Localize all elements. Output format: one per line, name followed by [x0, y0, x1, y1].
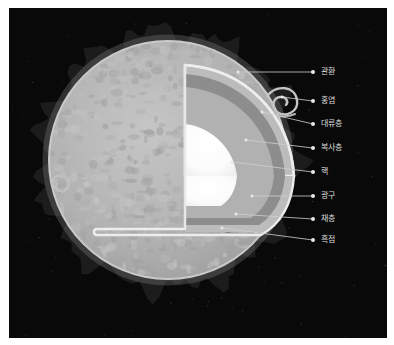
label-text-photosphere: 광구 [321, 191, 335, 201]
label-convection: 대류층 [311, 118, 343, 130]
label-text-prominence: 홍염 [321, 96, 335, 106]
label-text-chromosphere: 채층 [321, 214, 335, 224]
leader-tip-radiation [245, 139, 248, 142]
label-chromosphere: 채층 [311, 213, 335, 225]
label-text-core: 핵 [321, 167, 328, 177]
label-corona: 관환 [311, 66, 335, 78]
label-dot-corona [311, 70, 315, 74]
label-dot-convection [311, 122, 315, 126]
label-text-convection: 대류층 [321, 119, 343, 129]
label-dot-radiation [311, 146, 315, 150]
sun-diagram-figure: 관환홍염대류층복사층핵광구채층흑점 [0, 0, 394, 345]
label-text-radiation: 복사층 [321, 143, 343, 153]
label-text-corona: 관환 [321, 67, 335, 77]
label-text-sunspot: 흑점 [321, 235, 335, 245]
label-dot-prominence [311, 99, 315, 103]
leader-tip-core [231, 161, 234, 164]
leader-tip-chromosphere [235, 213, 238, 216]
label-sunspot: 흑점 [311, 234, 335, 246]
label-dot-core [311, 170, 315, 174]
leader-tip-convection [261, 111, 264, 114]
label-core: 핵 [311, 166, 328, 178]
space-panel: 관환홍염대류층복사층핵광구채층흑점 [9, 8, 387, 338]
sun-illustration [9, 8, 387, 338]
label-prominence: 홍염 [311, 95, 335, 107]
label-dot-photosphere [311, 194, 315, 198]
leader-tip-corona [237, 71, 240, 74]
leader-tip-photosphere [251, 195, 254, 198]
label-radiation: 복사층 [311, 142, 343, 154]
label-dot-sunspot [311, 238, 315, 242]
label-dot-chromosphere [311, 217, 315, 221]
leader-tip-sunspot [221, 227, 224, 230]
label-photosphere: 광구 [311, 190, 335, 202]
leader-tip-prominence [281, 96, 284, 99]
